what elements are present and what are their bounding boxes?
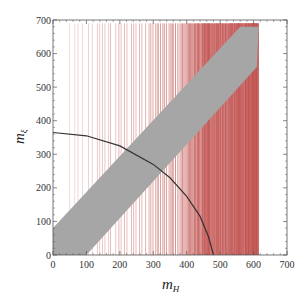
x-tick-label: 500 (213, 259, 228, 270)
y-tick-label: 0 (46, 250, 51, 261)
x-axis-label: mH (162, 276, 180, 294)
x-tick-label: 200 (112, 259, 127, 270)
x-tick-label: 700 (280, 259, 295, 270)
y-tick-label: 600 (36, 48, 51, 59)
y-axis-label: mξ (11, 129, 29, 144)
chart: 0100200300400500600700 01002003004005006… (0, 0, 303, 301)
y-tick-label: 300 (36, 149, 51, 160)
y-tick-label: 500 (36, 82, 51, 93)
y-tick-label: 400 (36, 115, 51, 126)
x-tick-label: 0 (51, 259, 56, 270)
x-tick-label: 400 (179, 259, 194, 270)
y-tick-label: 700 (36, 15, 51, 26)
plot-area (53, 23, 259, 255)
y-tick-label: 100 (36, 216, 51, 227)
x-tick-label: 100 (79, 259, 94, 270)
x-tick-label: 600 (246, 259, 261, 270)
y-tick-label: 200 (36, 182, 51, 193)
x-tick-label: 300 (146, 259, 161, 270)
